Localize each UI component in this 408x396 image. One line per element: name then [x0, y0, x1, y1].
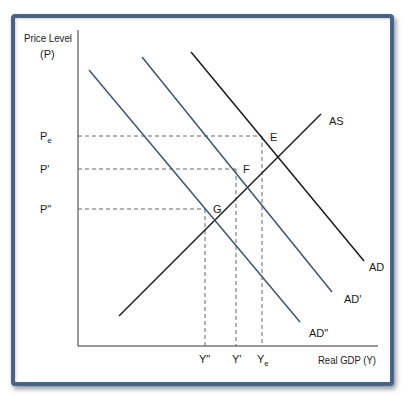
ad-double-prime-curve — [89, 70, 300, 322]
ad-prime-curve — [142, 57, 332, 292]
x-axis-title: Real GDP (Y) — [318, 354, 376, 366]
tick-pe: Pe — [40, 130, 52, 145]
tick-ye: Ye — [257, 353, 269, 368]
ad-label: AD — [369, 261, 384, 273]
tick-p-prime: P' — [40, 163, 49, 175]
y-axis-title-line2: (P) — [40, 48, 55, 60]
ad-as-diagram: Price Level (P) Pe P' P" Y" Y' Ye Real G… — [0, 0, 408, 396]
point-g-label: G — [213, 203, 222, 215]
y-axis-title-line1: Price Level — [24, 32, 72, 44]
tick-y-double-prime: Y" — [199, 353, 210, 365]
ad-double-prime-label: AD" — [309, 327, 328, 339]
ad-curve — [191, 52, 364, 261]
as-curve — [119, 114, 321, 316]
ad-prime-label: AD' — [344, 293, 361, 305]
as-label: AS — [329, 115, 344, 127]
tick-y-prime: Y' — [232, 353, 241, 365]
tick-p-double-prime: P" — [40, 203, 51, 215]
point-e-label: E — [270, 131, 277, 143]
point-f-label: F — [243, 163, 250, 175]
